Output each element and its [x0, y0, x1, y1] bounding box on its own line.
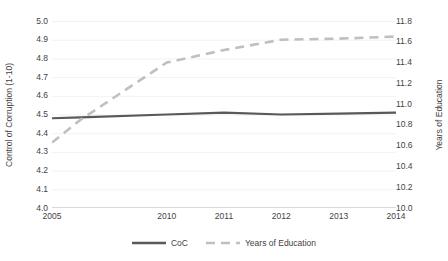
legend-entry[interactable]: Years of Education	[206, 238, 316, 248]
plot-svg	[52, 21, 396, 208]
x-axis-tick-label: 2012	[272, 212, 291, 221]
legend-label: Years of Education	[245, 238, 316, 248]
x-axis-tick-label: 2013	[329, 212, 348, 221]
x-axis-tick-label: 2010	[157, 212, 176, 221]
plot-area	[52, 21, 396, 208]
series-line-years-of-education	[52, 37, 396, 143]
chart-legend: CoCYears of Education	[0, 232, 448, 254]
legend-entry[interactable]: CoC	[132, 238, 188, 248]
legend-line-swatch	[206, 239, 240, 247]
x-axis-tick-label: 2005	[43, 212, 62, 221]
legend-label: CoC	[171, 238, 188, 248]
x-axis-tick-label: 2011	[215, 212, 233, 221]
legend-line-swatch	[132, 239, 166, 247]
dual-axis-line-chart: Control of Corruption (1-10) Years of Ed…	[0, 0, 448, 261]
x-axis-tick-label: 2014	[387, 212, 406, 221]
